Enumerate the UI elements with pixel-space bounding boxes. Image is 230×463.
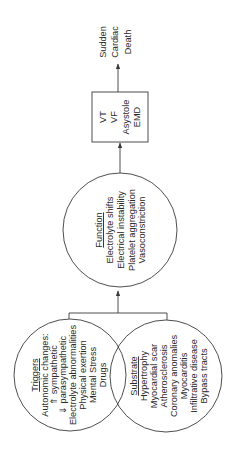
outcome-line: Death: [123, 30, 133, 55]
triggers-node: Triggers Autonomic changes: ⇑ sympatheti…: [14, 319, 126, 431]
substrate-line: Myocarditis: [179, 352, 189, 399]
substrate-line: Bypass tracts: [199, 348, 209, 404]
triggers-title: Triggers: [30, 358, 40, 392]
substrate-line: Infiltrative disease: [189, 339, 199, 413]
function-line: Platelet aggregation: [127, 189, 137, 271]
substrate-line: Hypertrophy: [139, 351, 149, 401]
function-line: Vasoconstriction: [137, 197, 147, 264]
arrhythmia-node: VT VF Asystole EMD: [92, 92, 148, 142]
merge-bracket: [69, 291, 167, 320]
function-line: Electrical instability: [116, 191, 126, 269]
substrate-title: Substrate: [129, 356, 139, 395]
arrhythmia-line: VT: [98, 111, 108, 123]
triggers-line: Physical exertion: [78, 340, 88, 409]
triggers-line: Drugs: [98, 362, 108, 387]
outcome-line: Sudden: [98, 26, 108, 58]
substrate-node: Substrate Hypertrophy Myocardial scar At…: [110, 320, 222, 432]
function-line: Electrolyte shifts: [105, 196, 115, 263]
outcome-line: Cardiac: [110, 26, 120, 58]
function-title: Function: [94, 212, 104, 247]
rotated-diagram-frame: Triggers Autonomic changes: ⇑ sympatheti…: [14, 26, 222, 432]
substrate-line: Myocardial scar: [149, 344, 159, 408]
arrhythmia-line: VF: [109, 111, 119, 123]
sudden-cardiac-death-diagram: Triggers Autonomic changes: ⇑ sympatheti…: [0, 0, 230, 463]
triggers-line: Mental Stress: [88, 347, 98, 404]
outcome-node: Sudden Cardiac Death: [98, 26, 133, 58]
function-node: Function Electrolyte shifts Electrical i…: [63, 173, 177, 287]
substrate-line: Coronary anomalies: [169, 334, 179, 417]
triggers-line: ⇓ parasympathetic: [58, 336, 68, 414]
arrhythmia-line: EMD: [132, 106, 142, 127]
arrhythmia-line: Asystole: [121, 100, 131, 135]
triggers-line: Electrolyte abnormalities: [68, 325, 78, 425]
substrate-line: Atherosclerosis: [159, 344, 169, 407]
